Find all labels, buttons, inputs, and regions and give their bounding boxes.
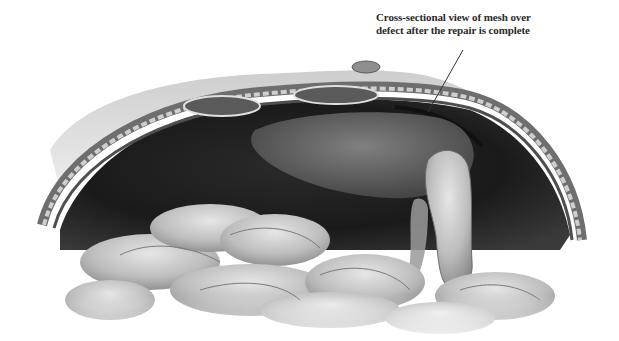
abdominal-cross-section-illustration xyxy=(0,0,619,341)
bottom-fade xyxy=(0,295,619,341)
figure-caption: Cross-sectional view of mesh over defect… xyxy=(376,11,616,37)
bowel-loop-vertical xyxy=(425,150,472,287)
caption-line-1: Cross-sectional view of mesh over xyxy=(376,11,616,24)
rectus-muscle-left xyxy=(184,96,260,116)
rectus-muscle-right xyxy=(294,86,378,104)
umbilicus xyxy=(352,61,380,73)
caption-line-2: defect after the repair is complete xyxy=(376,24,616,37)
